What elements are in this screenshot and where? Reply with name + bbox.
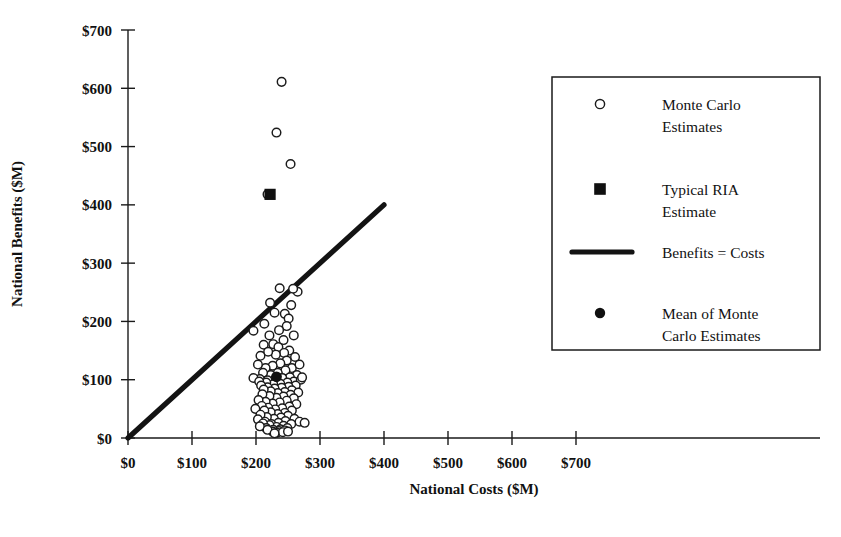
x-tick-label: $500 xyxy=(433,455,463,471)
monte-carlo-point xyxy=(272,128,281,137)
chart-page: $0$100$200$300$400$500$600$700 $0$100$20… xyxy=(0,0,841,537)
monte-carlo-point xyxy=(270,308,279,317)
x-tick-label: $200 xyxy=(241,455,271,471)
monte-carlo-point xyxy=(286,160,295,169)
y-tick-label: $200 xyxy=(82,314,112,330)
legend-label-monte-carlo: Monte Carlo xyxy=(662,96,741,113)
y-tick-label: $100 xyxy=(82,372,112,388)
monte-carlo-point xyxy=(289,284,298,293)
legend-filled-circle-icon xyxy=(595,308,605,318)
monte-carlo-point xyxy=(284,427,293,436)
y-tick-label: $500 xyxy=(82,139,112,155)
legend-label-mean-of-monte-line2: Carlo Estimates xyxy=(662,327,761,344)
legend-filled-square-icon xyxy=(594,183,606,195)
monte-carlo-points-group xyxy=(249,78,309,438)
mean-monte-carlo-marker xyxy=(271,371,282,382)
monte-carlo-point xyxy=(275,284,284,293)
x-tick-label: $100 xyxy=(177,455,207,471)
legend-open-circle-icon xyxy=(595,99,604,108)
y-tick-label: $600 xyxy=(82,81,112,97)
x-tick-label: $0 xyxy=(121,455,136,471)
legend-label-typical-ria-line2: Estimate xyxy=(662,203,716,220)
chart-legend: Monte CarloEstimatesTypical RIAEstimateB… xyxy=(552,77,820,350)
y-axis-tick-labels: $0$100$200$300$400$500$600$700 xyxy=(82,23,112,447)
x-tick-label: $400 xyxy=(369,455,399,471)
monte-carlo-point xyxy=(289,331,298,340)
legend-label-benefits-costs: Benefits = Costs xyxy=(662,244,765,261)
monte-carlo-point xyxy=(300,419,309,428)
monte-carlo-point xyxy=(287,301,296,310)
scatter-chart: $0$100$200$300$400$500$600$700 $0$100$20… xyxy=(0,0,841,537)
monte-carlo-point xyxy=(256,352,265,361)
legend-label-mean-of-monte: Mean of Monte xyxy=(662,305,759,322)
y-tick-label: $300 xyxy=(82,256,112,272)
monte-carlo-point xyxy=(260,319,269,328)
typical-ria-marker xyxy=(264,189,275,200)
monte-carlo-point xyxy=(298,373,307,382)
legend-label-typical-ria: Typical RIA xyxy=(662,181,740,198)
x-tick-label: $700 xyxy=(561,455,591,471)
monte-carlo-point xyxy=(295,360,304,369)
x-axis-title: National Costs ($M) xyxy=(409,481,538,498)
monte-carlo-point xyxy=(265,331,274,340)
monte-carlo-point xyxy=(270,429,279,438)
monte-carlo-point xyxy=(254,360,263,369)
monte-carlo-point xyxy=(275,326,284,335)
y-axis-title: National Benefits ($M) xyxy=(9,161,26,307)
y-tick-label: $400 xyxy=(82,197,112,213)
x-tick-label: $600 xyxy=(497,455,527,471)
monte-carlo-point xyxy=(266,298,275,307)
x-axis-tick-labels: $0$100$200$300$400$500$600$700 xyxy=(121,455,592,471)
x-tick-label: $300 xyxy=(305,455,335,471)
monte-carlo-point xyxy=(279,336,288,345)
legend-label-monte-carlo-line2: Estimates xyxy=(662,118,722,135)
monte-carlo-point xyxy=(277,78,286,87)
y-tick-label: $700 xyxy=(82,23,112,39)
y-tick-label: $0 xyxy=(97,431,112,447)
monte-carlo-point xyxy=(249,326,258,335)
